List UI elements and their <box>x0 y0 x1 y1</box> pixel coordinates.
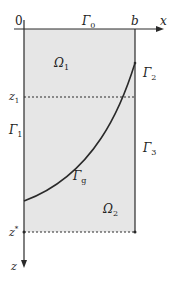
gamma2-label: Γ2 <box>142 66 156 82</box>
zstar-label: z* <box>8 225 19 239</box>
b-label: b <box>131 14 139 28</box>
gamma3-label: Γ3 <box>142 141 156 157</box>
curve-endpoint <box>134 62 137 65</box>
domain-diagram: 0 b x z Γ0 Ω1 Γ2 z1 Γ1 Γ3 Γg Ω2 z* <box>0 0 171 281</box>
gamma0-label: Γ0 <box>81 14 95 30</box>
z-axis-label: z <box>10 260 17 273</box>
origin-label: 0 <box>15 14 23 28</box>
domain-fill <box>24 29 135 232</box>
gamma1-label: Γ1 <box>8 123 22 139</box>
x-axis-label: x <box>160 14 167 28</box>
zstar-dot-left <box>23 231 26 234</box>
zstar-dot-right <box>134 231 137 234</box>
z-axis-arrow-icon <box>21 260 27 268</box>
z1-label: z1 <box>8 90 19 105</box>
